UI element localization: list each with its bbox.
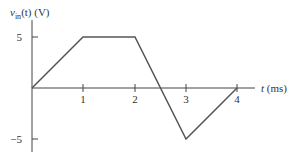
x-tick-label-4: 4 [234,93,240,105]
x-tick-label-2: 2 [132,93,138,105]
x-tick-label-1: 1 [80,93,86,105]
chart: 5 −5 1 2 3 4 vin(t) (V) t (ms) [0,0,295,162]
x-axis-label: t (ms) [261,82,287,95]
y-tick-label-5: 5 [17,31,23,43]
y-tick-label-neg5: −5 [10,133,22,145]
y-axis-label: vin(t) (V) [10,6,50,21]
x-tick-label-3: 3 [183,93,189,105]
